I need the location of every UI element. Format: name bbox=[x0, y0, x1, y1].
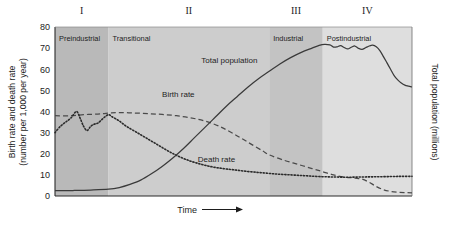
y-axis-title-line1: Birth rate and death rate bbox=[7, 65, 17, 158]
series-label-total-population: Total population bbox=[201, 56, 257, 65]
y-tick-label: 80 bbox=[40, 22, 50, 32]
y2-axis-title: Total population (millions) bbox=[430, 64, 440, 161]
time-arrow-head bbox=[236, 206, 243, 212]
y2-axis-title-text: Total population (millions) bbox=[430, 64, 440, 161]
stage-name-iv: Postindustrial bbox=[327, 34, 372, 43]
stage-bands bbox=[55, 27, 412, 196]
x-axis-title: Time bbox=[177, 205, 243, 215]
y-axis-ticks: 01020304050607080 bbox=[40, 22, 50, 201]
stage-name-iii: Industrial bbox=[273, 34, 303, 43]
stage-numeral-iv: IV bbox=[362, 5, 373, 16]
stage-numeral-iii: III bbox=[291, 5, 301, 16]
y-tick-label: 10 bbox=[40, 170, 50, 180]
y-tick-label: 20 bbox=[40, 149, 50, 159]
demographic-transition-chart: IIIIIIIV PreindustrialTransitionalIndust… bbox=[0, 0, 453, 225]
demographic-transition-figure: IIIIIIIV PreindustrialTransitionalIndust… bbox=[0, 0, 453, 225]
y-tick-label: 40 bbox=[40, 107, 50, 117]
series-label-birth-rate: Birth rate bbox=[162, 90, 195, 99]
y-tick-label: 60 bbox=[40, 65, 50, 75]
stage-name-ii: Transitional bbox=[113, 34, 151, 43]
y-axis-title-line2: (number per 1,000 per year) bbox=[18, 58, 28, 166]
stage-name-i: Preindustrial bbox=[59, 34, 100, 43]
y-tick-label: 0 bbox=[45, 191, 50, 201]
stage-band-iii bbox=[269, 27, 323, 196]
series-label-death-rate: Death rate bbox=[198, 155, 236, 164]
y-tick-label: 50 bbox=[40, 86, 50, 96]
stage-band-i bbox=[55, 27, 109, 196]
stage-numeral-i: I bbox=[80, 5, 83, 16]
stage-numeral-ii: II bbox=[186, 5, 193, 16]
y-axis-title: Birth rate and death rate (number per 1,… bbox=[7, 58, 28, 166]
y-tick-label: 70 bbox=[40, 43, 50, 53]
x-axis-title-text: Time bbox=[177, 205, 197, 215]
y-tick-label: 30 bbox=[40, 128, 50, 138]
stage-band-iv bbox=[323, 27, 412, 196]
stage-numerals: IIIIIIIV bbox=[80, 5, 373, 16]
